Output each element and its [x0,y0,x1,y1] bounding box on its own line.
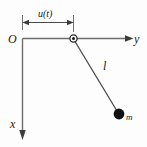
y-axis-arrowhead-icon [125,35,134,41]
mass-label: m [126,113,133,122]
rod-length-label: l [103,60,106,72]
diagram-canvas [0,0,147,147]
pendulum-rod [74,39,119,114]
dimension-arrowhead-left-icon [23,20,30,25]
x-axis-arrowhead-icon [19,130,25,140]
pendulum-diagram: u(t) O y x l m [0,0,147,147]
displacement-label: u(t) [38,9,52,19]
pivot-center-dot [72,37,75,40]
pendulum-bob [114,109,125,120]
origin-label: O [8,33,17,45]
y-axis-label: y [134,33,139,45]
dimension-arrowhead-right-icon [67,20,74,25]
x-axis-label: x [10,118,15,130]
